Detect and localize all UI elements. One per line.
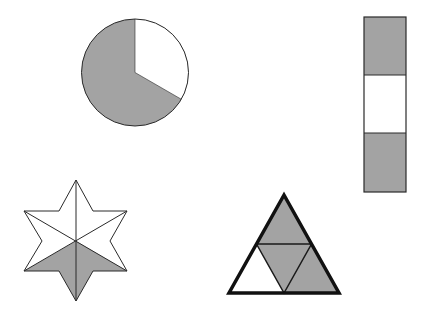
rectangle-shape [364, 17, 406, 192]
star-shape [24, 180, 127, 301]
fraction-shapes-diagram [0, 0, 428, 316]
triangle-shape [229, 195, 339, 293]
circle-shape [82, 19, 189, 126]
